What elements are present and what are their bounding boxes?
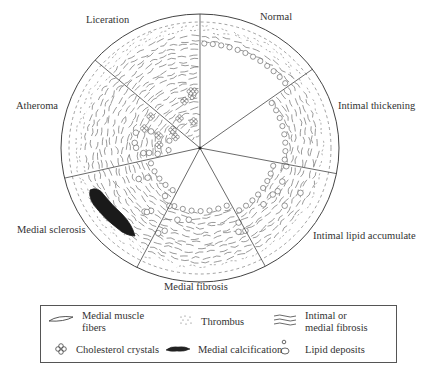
lipid-deposit-icon xyxy=(279,339,291,357)
legend: Medial muscle fibers Thrombus Intimal or… xyxy=(40,305,397,363)
fibrosis-icon xyxy=(273,313,297,327)
label-intimal-thickening: Intimal thickening xyxy=(338,100,415,111)
legend-label-line1: Intimal or xyxy=(305,310,368,322)
legend-label-line2: medial fibrosis xyxy=(305,322,368,334)
legend-medial-calcification: Medial calcification xyxy=(198,344,282,356)
legend-cholesterol-crystals: Cholesterol crystals xyxy=(76,344,159,356)
label-intimal-lipid-accumulate: Intimal lipid accumulate xyxy=(313,230,416,241)
label-liceration: Liceration xyxy=(86,14,129,25)
legend-medial-muscle-fibers: Medial muscle fibers xyxy=(82,310,144,334)
calcification-icon xyxy=(165,344,191,354)
label-medial-fibrosis: Medial fibrosis xyxy=(164,281,228,292)
label-normal: Normal xyxy=(260,11,292,22)
legend-label-line2: fibers xyxy=(82,322,144,334)
cholesterol-crystal-icon xyxy=(54,342,68,356)
legend-label-line1: Medial muscle xyxy=(82,310,144,322)
label-medial-sclerosis: Medial sclerosis xyxy=(17,224,86,235)
legend-thrombus: Thrombus xyxy=(201,316,244,328)
medial-muscle-fiber-icon xyxy=(48,314,74,324)
legend-intimal-or-medial-fibrosis: Intimal or medial fibrosis xyxy=(305,310,368,334)
center-dot xyxy=(198,146,201,149)
legend-lipid-deposits: Lipid deposits xyxy=(305,344,365,356)
label-atheroma: Atheroma xyxy=(16,100,58,111)
artery-diagram: Liceration Normal Atheroma Intimal thick… xyxy=(0,0,433,374)
thrombus-icon xyxy=(179,314,193,326)
